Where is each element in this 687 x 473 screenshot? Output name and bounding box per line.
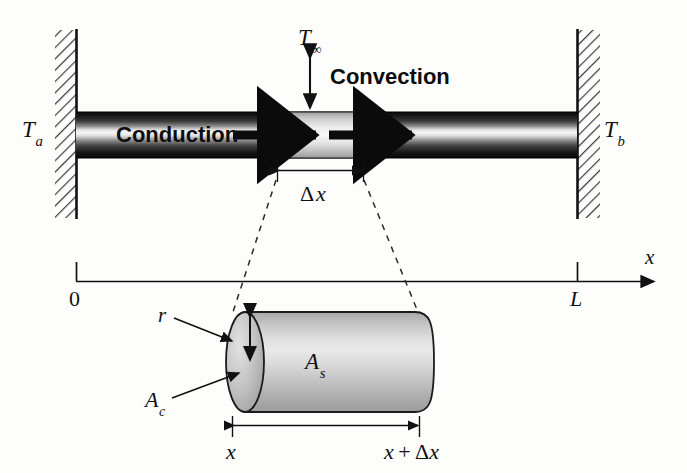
convection-label: Convection (330, 66, 450, 88)
conduction-label: Conduction (116, 124, 238, 146)
surface-area-label: As (305, 350, 325, 377)
cylinder-length-dimension (233, 416, 420, 437)
heat-transfer-figure: Ta Tb T∞ Convection Conduction Δ x x 0 L… (0, 0, 687, 473)
detail-left-position-label: x (226, 441, 236, 463)
wall-left-temperature-label: Ta (22, 118, 42, 145)
delta-x-label: Δ x (300, 183, 326, 205)
radius-label: r (158, 305, 166, 326)
detail-right-position-label: x + Δx (384, 441, 439, 463)
x-axis-label: x (645, 247, 654, 268)
x-axis (76, 262, 654, 282)
delta-x-dimension (278, 160, 364, 182)
origin-label: 0 (69, 288, 80, 310)
magnified-cylinder (226, 312, 434, 412)
wall-right (578, 29, 601, 219)
ambient-temperature-label: T∞ (298, 26, 321, 53)
wall-right-temperature-label: Tb (604, 118, 624, 145)
radius-leader (174, 318, 232, 341)
wall-left (55, 29, 77, 219)
length-label: L (570, 288, 582, 310)
cross-sectional-area-label: Ac (145, 389, 165, 414)
